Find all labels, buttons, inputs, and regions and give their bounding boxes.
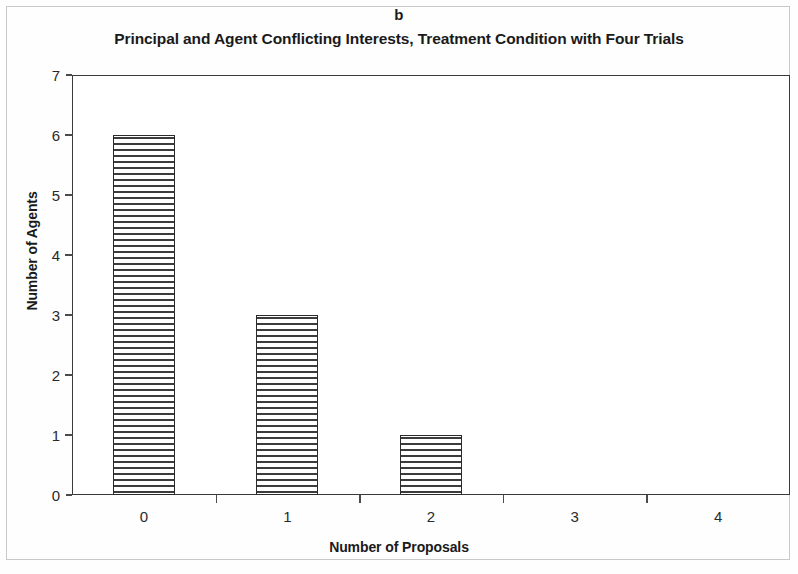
y-tick-label: 7 [30, 67, 60, 84]
bar-slot [216, 75, 360, 495]
bar-slot [72, 75, 216, 495]
y-tick-label: 0 [30, 487, 60, 504]
x-axis-title: Number of Proposals [0, 539, 798, 555]
bar-slot [503, 75, 647, 495]
x-tick-label: 2 [359, 508, 503, 525]
x-tick-label: 0 [72, 508, 216, 525]
x-tick-mark [646, 495, 647, 503]
bar-slot [359, 75, 503, 495]
x-tick-label: 1 [216, 508, 360, 525]
y-tick-label: 2 [30, 367, 60, 384]
x-tick-mark [503, 495, 504, 503]
y-tick-label: 1 [30, 427, 60, 444]
chart-title: Principal and Agent Conflicting Interest… [0, 30, 798, 48]
bar[interactable] [256, 315, 318, 495]
bar[interactable] [400, 435, 462, 495]
y-axis-title: Number of Agents [24, 141, 40, 361]
panel-label: b [0, 6, 798, 23]
x-tick-label: 4 [646, 508, 790, 525]
x-axis-ticks [72, 495, 790, 505]
bar-slot [646, 75, 790, 495]
x-axis-tick-labels: 01234 [72, 508, 790, 525]
bar-chart-figure: b Principal and Agent Conflicting Intere… [0, 0, 798, 574]
x-tick-label: 3 [503, 508, 647, 525]
x-tick-mark [359, 495, 360, 503]
x-tick-mark [216, 495, 217, 503]
bars-container [72, 75, 790, 495]
bar[interactable] [113, 135, 175, 495]
